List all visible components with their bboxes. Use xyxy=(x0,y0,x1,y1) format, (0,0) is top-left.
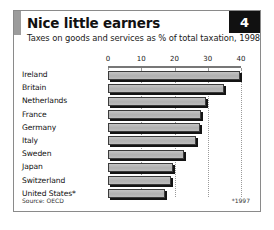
category-label: Sweden xyxy=(22,149,51,158)
category-label: Italy xyxy=(22,136,38,145)
chart-row: Italy xyxy=(14,135,260,148)
bar xyxy=(108,97,206,106)
x-axis-tick-mark xyxy=(108,68,109,70)
chart-row: Netherlands xyxy=(14,95,260,108)
x-axis-tick-label: 40 xyxy=(237,55,246,63)
chart-row: Britain xyxy=(14,82,260,95)
bar-container xyxy=(108,123,200,133)
x-axis-tick-mark xyxy=(175,68,176,70)
x-axis-tick-labels: 010203040 xyxy=(14,55,260,66)
x-axis-tick-mark xyxy=(141,68,142,70)
bar xyxy=(108,136,196,145)
x-axis-tick-label: 0 xyxy=(106,55,110,63)
footnote-note: *1997 xyxy=(232,197,250,204)
bar-container xyxy=(108,176,171,186)
chart-figure: Nice little earners Taxes on goods and s… xyxy=(13,10,261,212)
chart-row: Sweden xyxy=(14,148,260,161)
bar xyxy=(108,163,173,172)
chart-footer: Source: OECD *1997 xyxy=(14,197,260,209)
x-axis-tick-label: 10 xyxy=(137,55,146,63)
bar xyxy=(108,150,184,159)
category-label: Japan xyxy=(22,162,43,171)
category-label: Britain xyxy=(22,83,46,92)
bar xyxy=(108,84,224,93)
bar xyxy=(108,123,200,132)
chart-row: Switzerland xyxy=(14,175,260,188)
source-note: Source: OECD xyxy=(22,197,64,204)
chart-number-badge: 4 xyxy=(229,11,260,33)
bar xyxy=(108,176,171,185)
bar-container xyxy=(108,84,224,94)
bar-container xyxy=(108,97,206,107)
bar xyxy=(108,71,240,80)
category-label: France xyxy=(22,110,47,119)
chart-row: France xyxy=(14,109,260,122)
bar-container xyxy=(108,136,196,146)
page-title: Nice little earners xyxy=(27,15,160,31)
bar-rows: IrelandBritainNetherlandsFranceGermanyIt… xyxy=(14,69,260,201)
category-label: Switzerland xyxy=(22,176,65,185)
chart-row: Japan xyxy=(14,161,260,174)
chart-row: Ireland xyxy=(14,69,260,82)
chart-subtitle: Taxes on goods and services as % of tota… xyxy=(27,33,260,43)
bar-container xyxy=(108,163,173,173)
bar-container xyxy=(108,110,201,120)
bar xyxy=(108,110,201,119)
bar-container xyxy=(108,150,184,160)
category-label: Germany xyxy=(22,123,56,132)
x-axis-tick-mark xyxy=(208,68,209,70)
x-axis-tick-label: 30 xyxy=(203,55,212,63)
x-axis-tick-mark xyxy=(241,68,242,70)
x-axis-tick-label: 20 xyxy=(170,55,179,63)
accent-bar xyxy=(14,11,21,35)
bar-container xyxy=(108,71,240,81)
chart-row: Germany xyxy=(14,122,260,135)
chart-plot-area: 010203040 IrelandBritainNetherlandsFranc… xyxy=(14,55,260,211)
category-label: Ireland xyxy=(22,70,48,79)
chart-header: Nice little earners Taxes on goods and s… xyxy=(14,11,260,55)
category-label: Netherlands xyxy=(22,96,67,105)
